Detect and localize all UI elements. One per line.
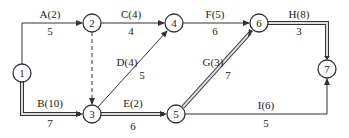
node-7: 7 xyxy=(318,60,336,78)
edge-h-activity: H(8) xyxy=(289,8,310,21)
node-5-label: 5 xyxy=(173,108,179,120)
node-2-label: 2 xyxy=(89,17,95,29)
edge-i-duration: 5 xyxy=(263,117,269,129)
node-4: 4 xyxy=(165,14,183,32)
edge-f-duration: 6 xyxy=(212,25,218,37)
edge-e-activity: E(2) xyxy=(123,97,143,110)
node-7-label: 7 xyxy=(324,63,330,75)
node-1-label: 1 xyxy=(19,67,25,79)
edge-h: H(8) 3 xyxy=(268,8,330,60)
edge-d-activity: D(4) xyxy=(117,56,138,69)
network-diagram: A(2) 5 B(10) 7 C(4) 4 D(4) 5 E(2) 6 F(5)… xyxy=(0,0,349,138)
edge-d-duration: 5 xyxy=(139,69,145,81)
edge-a: A(2) 5 xyxy=(22,8,82,64)
edge-d: D(4) 5 xyxy=(98,31,167,107)
edge-e-duration: 6 xyxy=(130,120,136,132)
node-4-label: 4 xyxy=(171,17,177,29)
edge-b: B(10) 7 xyxy=(22,82,83,129)
edge-e: E(2) 6 xyxy=(101,97,167,132)
edge-c: C(4) 4 xyxy=(101,8,164,37)
edge-b-activity: B(10) xyxy=(37,97,63,110)
edge-i: I(6) 5 xyxy=(185,79,327,129)
edge-h-duration: 3 xyxy=(296,25,302,37)
edge-c-activity: C(4) xyxy=(121,8,142,21)
node-6-label: 6 xyxy=(256,17,262,29)
node-2: 2 xyxy=(83,14,101,32)
edge-g-duration: 7 xyxy=(225,69,231,81)
edge-a-duration: 5 xyxy=(47,25,53,37)
edge-c-duration: 4 xyxy=(128,25,134,37)
edge-g-activity: G(3) xyxy=(203,56,224,69)
edge-i-activity: I(6) xyxy=(258,99,275,112)
edge-b-duration: 7 xyxy=(47,117,53,129)
node-3: 3 xyxy=(83,105,101,123)
node-1: 1 xyxy=(13,64,31,82)
node-3-label: 3 xyxy=(89,108,95,120)
edge-f: F(5) 6 xyxy=(183,8,249,37)
edge-f-activity: F(5) xyxy=(206,8,225,21)
node-5: 5 xyxy=(167,105,185,123)
edge-a-activity: A(2) xyxy=(40,8,61,21)
node-6: 6 xyxy=(250,14,268,32)
edge-g: G(3) 7 xyxy=(183,29,253,107)
